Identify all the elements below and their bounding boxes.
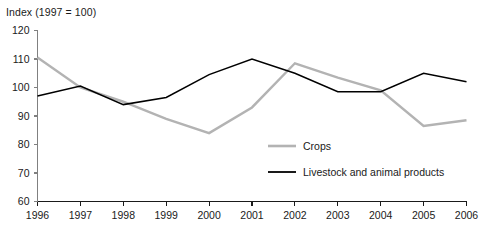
x-tick-label: 1998: [112, 209, 136, 221]
x-tick-label: 2000: [197, 209, 221, 221]
line-chart-plot: 60708090100110120 1996199719981999200020…: [0, 0, 479, 233]
x-tick-label: 1997: [69, 209, 93, 221]
data-series-lines: [38, 58, 467, 134]
y-axis-tick-marks: [34, 31, 38, 202]
y-tick-label: 100: [12, 81, 30, 93]
x-tick-label: 1999: [155, 209, 179, 221]
x-tick-label: 2006: [455, 209, 479, 221]
x-tick-label: 1996: [26, 209, 50, 221]
legend-label-2: Livestock and animal products: [303, 166, 444, 178]
y-tick-label: 120: [12, 24, 30, 36]
x-axis-tick-labels: 1996199719981999200020012002200320042005…: [26, 209, 479, 221]
x-tick-label: 2004: [369, 209, 393, 221]
x-tick-label: 2005: [412, 209, 436, 221]
y-tick-label: 90: [18, 110, 30, 122]
y-tick-label: 60: [18, 195, 30, 207]
y-tick-label: 110: [13, 53, 30, 65]
y-tick-label: 80: [18, 138, 30, 150]
x-axis-tick-marks: [38, 202, 467, 206]
x-tick-label: 2003: [326, 209, 350, 221]
x-tick-label: 2002: [283, 209, 307, 221]
chart-legend: CropsLivestock and animal products: [268, 140, 444, 178]
y-axis-tick-labels: 60708090100110120: [12, 24, 30, 207]
x-tick-label: 2001: [240, 209, 264, 221]
y-tick-label: 70: [18, 167, 30, 179]
chart-container: Index (1997 = 100) 60708090100110120 199…: [0, 0, 479, 233]
series-line-livestock-and-animal-products: [38, 59, 467, 105]
legend-label-1: Crops: [303, 140, 331, 152]
